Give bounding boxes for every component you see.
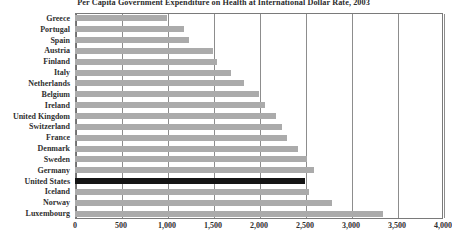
bar-portugal: [75, 26, 184, 32]
x-axis-labels: 05001,0001,5002,0002,5003,0003,5004,000: [75, 221, 443, 237]
bar-norway: [75, 200, 332, 206]
bar-france: [75, 135, 287, 141]
y-label-united-kingdom: United Kingdom: [13, 112, 70, 121]
y-label-switzerland: Switzerland: [29, 122, 70, 131]
bar-sweden: [75, 156, 307, 162]
x-label-1000: 1,000: [158, 221, 176, 231]
bar-austria: [75, 48, 213, 54]
bar-spain: [75, 37, 189, 43]
y-label-belgium: Belgium: [42, 90, 70, 99]
x-label-2000: 2,000: [250, 221, 268, 231]
y-label-united-states: United States: [24, 177, 70, 186]
y-axis-labels: GreecePortugalSpainAustriaFinlandItalyNe…: [0, 13, 73, 219]
bar-united-states: [75, 178, 305, 184]
x-label-0: 0: [73, 221, 77, 231]
y-label-portugal: Portugal: [40, 25, 70, 34]
gridline-4000: [444, 14, 445, 218]
bar-luxembourg: [75, 211, 383, 217]
y-label-spain: Spain: [50, 36, 70, 45]
y-label-austria: Austria: [44, 46, 70, 55]
bar-netherlands: [75, 80, 244, 86]
bar-belgium: [75, 91, 259, 97]
y-label-norway: Norway: [43, 198, 70, 207]
y-label-sweden: Sweden: [44, 155, 70, 164]
y-label-denmark: Denmark: [38, 144, 70, 153]
bar-ireland: [75, 102, 265, 108]
bar-switzerland: [75, 124, 282, 130]
bar-germany: [75, 167, 314, 173]
y-label-netherlands: Netherlands: [28, 79, 70, 88]
x-label-4000: 4,000: [434, 221, 452, 231]
x-label-500: 500: [115, 221, 127, 231]
bar-iceland: [75, 189, 309, 195]
bar-greece: [75, 15, 167, 21]
y-label-greece: Greece: [46, 14, 70, 23]
y-label-finland: Finland: [43, 57, 70, 66]
x-label-2500: 2,500: [296, 221, 314, 231]
bar-italy: [75, 70, 231, 76]
y-label-iceland: Iceland: [45, 187, 70, 196]
bar-denmark: [75, 146, 298, 152]
bar-united-kingdom: [75, 113, 276, 119]
y-label-italy: Italy: [54, 68, 70, 77]
bars-group: [75, 13, 443, 219]
bar-finland: [75, 59, 217, 65]
y-label-luxembourg: Luxembourg: [26, 209, 70, 218]
chart-title: Per Capita Government Expenditure on Hea…: [0, 0, 447, 8]
x-label-1500: 1,500: [204, 221, 222, 231]
y-label-germany: Germany: [38, 166, 70, 175]
y-label-france: France: [46, 133, 70, 142]
y-label-ireland: Ireland: [45, 101, 70, 110]
x-label-3000: 3,000: [342, 221, 360, 231]
x-label-3500: 3,500: [388, 221, 406, 231]
